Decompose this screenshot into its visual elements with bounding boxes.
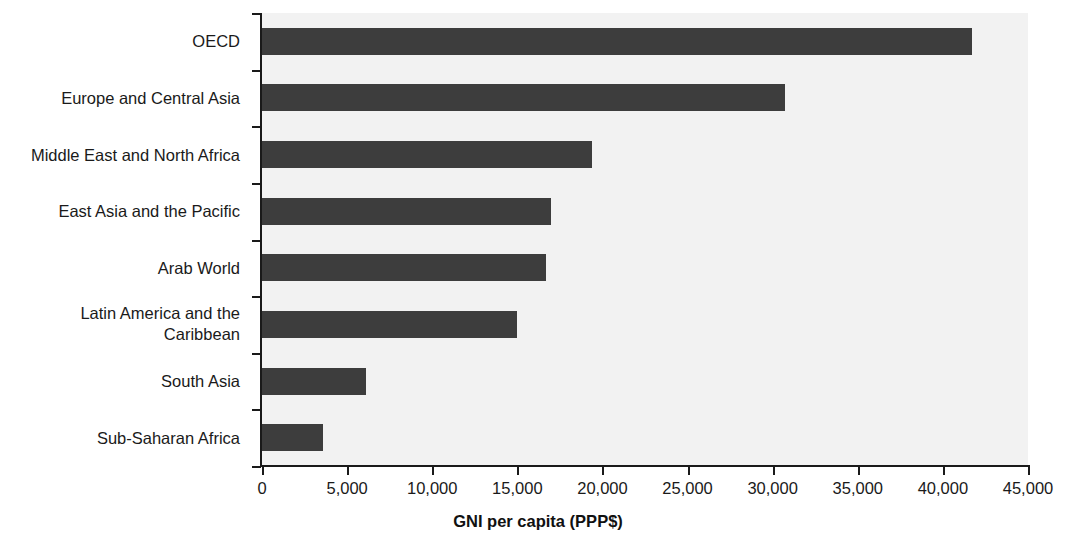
y-axis-tick [252, 296, 261, 298]
category-label-oecd: OECD [0, 31, 240, 52]
x-axis-tick [262, 466, 264, 475]
y-axis-tick [252, 353, 261, 355]
category-label-latin-america-and-the-caribbean: Latin America and the Caribbean [0, 303, 240, 345]
bar-south-asia [262, 368, 366, 395]
x-axis-tick-label: 0 [257, 478, 266, 498]
x-axis-tick [688, 466, 690, 475]
y-axis-tick [252, 183, 261, 185]
category-label-europe-and-central-asia: Europe and Central Asia [0, 87, 240, 108]
x-axis-tick-label: 45,000 [1003, 478, 1053, 498]
category-label-east-asia-and-the-pacific: East Asia and the Pacific [0, 201, 240, 222]
category-label-arab-world: Arab World [0, 257, 240, 278]
x-axis-tick [858, 466, 860, 475]
y-axis-tick [252, 240, 261, 242]
x-axis-tick-label: 10,000 [407, 478, 457, 498]
category-axis-labels: OECD Europe and Central Asia Middle East… [0, 13, 250, 466]
x-axis-tick [602, 466, 604, 475]
bar-latin-america-and-the-caribbean [262, 311, 517, 338]
plot-area [262, 13, 1028, 466]
bar-arab-world [262, 254, 546, 281]
x-axis-tick-label: 25,000 [662, 478, 712, 498]
x-axis-tick-label: 30,000 [747, 478, 797, 498]
y-axis-tick [252, 409, 261, 411]
category-label-sub-saharan-africa: Sub-Saharan Africa [0, 427, 240, 448]
x-axis-tick-label: 20,000 [577, 478, 627, 498]
y-axis-tick [252, 126, 261, 128]
x-axis-tick [517, 466, 519, 475]
x-axis-tick [347, 466, 349, 475]
gni-per-capita-bar-chart: OECD Europe and Central Asia Middle East… [0, 0, 1076, 547]
x-axis-title: GNI per capita (PPP$) [0, 512, 1076, 531]
bar-middle-east-and-north-africa [262, 141, 592, 168]
y-axis-tick [252, 70, 261, 72]
x-axis-tick-label: 15,000 [492, 478, 542, 498]
bar-europe-and-central-asia [262, 84, 785, 111]
x-axis-tick-label: 40,000 [918, 478, 968, 498]
x-axis-line [260, 465, 1030, 467]
x-axis-tick [432, 466, 434, 475]
category-label-middle-east-and-north-africa: Middle East and North Africa [0, 144, 240, 165]
bar-oecd [262, 28, 972, 55]
x-axis-tick [943, 466, 945, 475]
x-axis-tick [773, 466, 775, 475]
x-axis-tick-label: 35,000 [833, 478, 883, 498]
x-axis-tick [1028, 466, 1030, 475]
y-axis-tick [252, 13, 261, 15]
bar-sub-saharan-africa [262, 424, 323, 451]
x-axis-tick-label: 5,000 [326, 478, 367, 498]
category-label-south-asia: South Asia [0, 371, 240, 392]
bar-east-asia-and-the-pacific [262, 198, 551, 225]
y-axis-tick [252, 466, 261, 468]
